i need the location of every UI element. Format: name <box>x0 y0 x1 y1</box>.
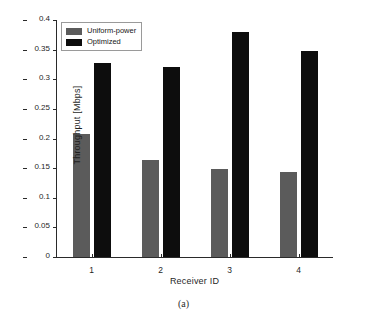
y-tick-mark-inner <box>23 198 27 199</box>
x-tick-mark <box>92 254 93 258</box>
figure: 00.050.10.150.20.250.30.350.4 1234 Throu… <box>0 0 367 321</box>
y-tick-mark-inner <box>23 227 27 228</box>
x-tick-mark <box>161 254 162 258</box>
optimized-swatch-icon <box>66 39 82 46</box>
legend-label-optimized: Optimized <box>87 38 121 46</box>
y-tick-mark <box>53 198 57 199</box>
x-tick-mark <box>299 254 300 258</box>
y-tick-mark <box>53 50 57 51</box>
bar-optimized-2 <box>163 67 180 257</box>
y-tick-label: 0.05 <box>34 221 50 230</box>
legend-item-optimized: Optimized <box>66 37 136 47</box>
plot-area: 00.050.10.150.20.250.30.350.4 1234 Throu… <box>56 20 333 258</box>
y-tick-mark-inner <box>23 257 27 258</box>
legend-item-uniform-power: Uniform-power <box>66 26 136 36</box>
y-tick-mark <box>53 257 57 258</box>
y-axis-label: Throughput [Mbps] <box>72 65 82 185</box>
figure-caption: (a) <box>0 298 367 309</box>
y-tick-label: 0.2 <box>39 133 50 142</box>
y-tick-mark <box>53 109 57 110</box>
y-tick-label: 0.25 <box>34 103 50 112</box>
y-tick-label: 0.35 <box>34 44 50 53</box>
y-tick-mark <box>53 227 57 228</box>
bar-optimized-1 <box>94 63 111 257</box>
y-tick-label: 0.3 <box>39 73 50 82</box>
y-tick-mark <box>53 20 57 21</box>
y-tick-mark-inner <box>23 79 27 80</box>
y-tick-label: 0.4 <box>39 14 50 23</box>
uniform-power-swatch-icon <box>66 28 82 35</box>
bar-uniform-power-4 <box>280 172 297 257</box>
bar-optimized-4 <box>301 51 318 257</box>
x-tick-mark <box>230 254 231 258</box>
bar-uniform-power-2 <box>142 160 159 257</box>
y-tick-label: 0 <box>46 251 50 260</box>
y-tick-mark-inner <box>23 20 27 21</box>
y-tick-mark-inner <box>23 139 27 140</box>
bar-uniform-power-3 <box>211 169 228 257</box>
legend-label-uniform-power: Uniform-power <box>87 27 136 35</box>
y-tick-mark-inner <box>23 109 27 110</box>
y-tick-mark <box>53 168 57 169</box>
x-axis-label: Receiver ID <box>56 276 333 286</box>
bar-optimized-3 <box>232 32 249 257</box>
x-tick-label: 1 <box>82 265 102 275</box>
x-tick-label: 2 <box>151 265 171 275</box>
y-tick-label: 0.15 <box>34 162 50 171</box>
y-tick-mark <box>53 79 57 80</box>
x-tick-label: 4 <box>289 265 309 275</box>
y-tick-label: 0.1 <box>39 192 50 201</box>
y-tick-mark-inner <box>23 168 27 169</box>
y-tick-mark <box>53 139 57 140</box>
chart-legend: Uniform-power Optimized <box>61 22 142 51</box>
x-tick-label: 3 <box>220 265 240 275</box>
y-tick-mark-inner <box>23 50 27 51</box>
